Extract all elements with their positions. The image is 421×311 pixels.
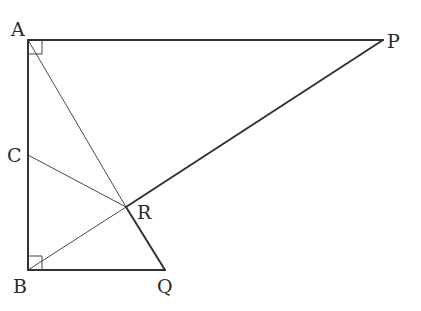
- segment-AR: [28, 40, 126, 207]
- label-P: P: [387, 30, 400, 52]
- segment-RP: [126, 40, 383, 207]
- geometry-diagram: A P C R B Q: [0, 0, 421, 311]
- right-angle-B-icon: [28, 256, 42, 270]
- diagram-canvas: A P C R B Q: [0, 0, 421, 311]
- label-R: R: [137, 201, 152, 223]
- label-Q: Q: [157, 275, 173, 297]
- label-C: C: [7, 144, 22, 166]
- label-B: B: [13, 275, 27, 297]
- segment-BR: [28, 207, 126, 270]
- label-A: A: [10, 18, 25, 40]
